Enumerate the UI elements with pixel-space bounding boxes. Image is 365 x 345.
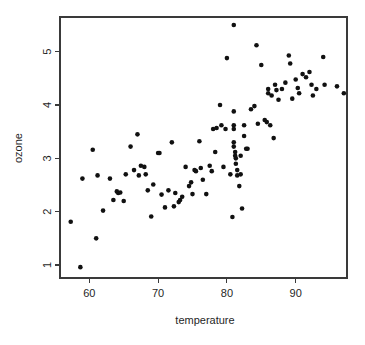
data-point [108,176,113,181]
y-axis-title: ozone [12,133,24,163]
data-point [121,199,126,204]
data-point [209,169,214,174]
data-point [234,161,239,166]
data-point [314,87,319,92]
scatter-plot-figure: 60708090 12345 temperature ozone [0,0,365,345]
data-point [266,87,271,92]
data-point [242,134,247,139]
data-point [142,165,147,170]
data-point [293,77,298,82]
data-point [311,93,316,98]
data-point [68,220,73,225]
data-point [335,84,340,89]
plot-background [0,0,365,345]
data-point [157,151,162,156]
data-point [242,123,247,128]
data-point [322,82,327,87]
data-point [244,146,249,151]
data-point [225,56,230,61]
data-point [321,55,326,60]
data-point [198,166,203,171]
data-point [111,198,116,203]
data-point [143,172,148,177]
data-point [219,123,224,128]
data-point [201,177,206,182]
data-point [231,140,236,145]
data-point [145,188,150,193]
data-point [101,208,106,213]
data-point [240,206,245,211]
data-point [249,107,254,112]
data-point [135,132,140,137]
data-point [274,88,279,93]
data-point [256,121,261,126]
data-point [304,75,309,80]
data-point [254,43,259,48]
data-point [231,23,236,28]
data-point [283,80,288,85]
data-point [223,127,228,132]
data-point [132,168,137,173]
data-point [204,192,209,197]
data-point [197,139,202,144]
data-point [252,104,257,109]
data-point [166,188,171,193]
data-point [163,205,168,210]
data-point [265,120,270,125]
data-point [234,156,239,161]
data-point [307,70,312,75]
data-point [151,182,156,187]
plot-canvas: 60708090 12345 temperature ozone [0,0,365,345]
data-point [170,140,175,145]
data-point [90,148,95,153]
data-point [231,127,236,132]
data-point [172,204,177,209]
data-point [231,109,236,114]
data-point [213,150,218,155]
data-point [214,126,219,131]
x-axis-title: temperature [175,314,234,326]
data-point [118,190,123,195]
data-point [235,168,240,173]
x-tick-label-90: 90 [290,287,302,299]
data-point [137,173,142,178]
data-point [237,184,242,189]
data-point [80,176,85,181]
data-point [180,194,185,199]
data-point [238,153,243,158]
data-point [228,172,233,177]
data-point [280,87,285,92]
y-tick-label-3: 3 [41,155,53,161]
data-point [288,61,293,66]
data-point [259,63,264,68]
data-point [287,53,292,58]
data-point [342,91,347,96]
data-point [123,172,128,177]
data-point [230,215,235,220]
data-point [290,96,295,101]
data-point [295,86,300,91]
x-tick-label-70: 70 [152,287,164,299]
y-tick-label-5: 5 [41,49,53,55]
data-point [94,236,99,241]
data-point [218,103,223,108]
data-point [300,72,305,77]
data-point [309,82,314,87]
data-point [221,165,226,170]
x-tick-label-60: 60 [83,287,95,299]
data-point [95,173,100,178]
y-tick-label-1: 1 [41,262,53,268]
data-point [297,91,302,96]
data-point [268,123,273,128]
data-point [269,93,274,98]
data-point [183,165,188,170]
data-point [78,265,83,270]
data-point [190,192,195,197]
data-point [238,172,243,177]
data-point [207,164,212,169]
data-point [231,144,236,149]
data-point [128,144,133,149]
data-point [271,136,276,141]
y-tick-label-2: 2 [41,209,53,215]
data-point [194,169,199,174]
